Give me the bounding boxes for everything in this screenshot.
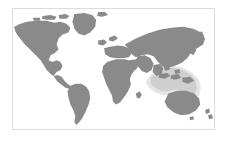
map-frame — [12, 8, 215, 130]
world-map-svg[interactable] — [13, 9, 214, 129]
world-map-widget[interactable] — [0, 0, 227, 142]
